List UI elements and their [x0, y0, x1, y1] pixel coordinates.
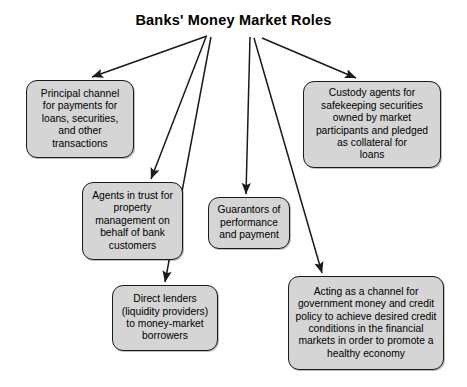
arrow-to-principal-channel — [92, 36, 207, 77]
node-label: Agents in trust for property management … — [88, 190, 177, 252]
node-agents-in-trust[interactable]: Agents in trust for property management … — [82, 182, 183, 260]
node-policy-channel[interactable]: Acting as a channel for government money… — [288, 276, 444, 370]
node-custody-agents[interactable]: Custody agents for safekeeping securitie… — [303, 81, 441, 168]
node-label: Custody agents for safekeeping securitie… — [309, 87, 435, 161]
arrow-to-guarantors — [246, 37, 250, 194]
node-direct-lenders[interactable]: Direct lenders (liquidity providers) to … — [112, 285, 218, 351]
node-label: Guarantors of performance and payment — [214, 204, 284, 241]
node-label: Direct lenders (liquidity providers) to … — [118, 293, 212, 343]
node-guarantors[interactable]: Guarantors of performance and payment — [208, 197, 290, 249]
node-principal-channel[interactable]: Principal channel for payments for loans… — [26, 80, 134, 158]
arrow-to-custody-agents — [262, 38, 356, 78]
node-label: Acting as a channel for government money… — [294, 286, 438, 360]
node-label: Principal channel for payments for loans… — [32, 88, 128, 150]
diagram-canvas: Banks' Money Market Roles Principal chan… — [0, 0, 467, 387]
